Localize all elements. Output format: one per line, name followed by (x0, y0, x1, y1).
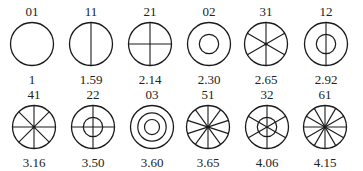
mode-label: 02 (179, 5, 239, 19)
mode-cell: 41 3.16 (4, 88, 64, 170)
mode-label: 31 (236, 5, 296, 19)
mode-cell: 01 1 (2, 5, 62, 87)
value-label: 2.30 (179, 73, 239, 87)
mode-cell: 32 4.06 (237, 88, 297, 170)
mode-label: 51 (178, 88, 238, 102)
mode-cell: 21 2.14 (120, 5, 180, 87)
mode-cell: 61 4.15 (295, 88, 355, 170)
value-label: 2.92 (296, 73, 356, 87)
mode-label: 12 (296, 5, 356, 19)
value-label: 3.50 (63, 156, 123, 170)
mode-cell: 11 1.59 (61, 5, 121, 87)
circle-pattern-icon (185, 104, 231, 150)
mode-label: 61 (295, 88, 355, 102)
value-label: 3.16 (4, 156, 64, 170)
circle-pattern-icon (68, 21, 114, 67)
mode-label: 22 (63, 88, 123, 102)
mode-cell: 22 3.50 (63, 88, 123, 170)
circle-pattern-icon (9, 21, 55, 67)
value-label: 3.65 (178, 156, 238, 170)
mode-label: 11 (61, 5, 121, 19)
value-label: 4.15 (295, 156, 355, 170)
value-label: 1.59 (61, 73, 121, 87)
mode-cell: 12 2.92 (296, 5, 356, 87)
circle-pattern-icon (129, 104, 175, 150)
circle-pattern-icon (244, 104, 290, 150)
circle-pattern-icon (243, 21, 289, 67)
value-label: 2.14 (120, 73, 180, 87)
circle-pattern-icon (302, 104, 348, 150)
value-label: 4.06 (237, 156, 297, 170)
mode-cell: 03 3.60 (122, 88, 182, 170)
mode-label: 03 (122, 88, 182, 102)
circle-pattern-icon (303, 21, 349, 67)
mode-cell: 02 2.30 (179, 5, 239, 87)
mode-cell: 31 2.65 (236, 5, 296, 87)
circle-pattern-icon (11, 104, 57, 150)
circle-pattern-icon (70, 104, 116, 150)
mode-cell: 51 3.65 (178, 88, 238, 170)
value-label: 3.60 (122, 156, 182, 170)
circle-pattern-icon (127, 21, 173, 67)
mode-label: 21 (120, 5, 180, 19)
mode-pattern-diagram: 01 1 11 1.59 21 2.14 02 2.30 31 2.65 12 … (0, 0, 363, 171)
mode-label: 01 (2, 5, 62, 19)
value-label: 1 (2, 73, 62, 87)
mode-label: 32 (237, 88, 297, 102)
value-label: 2.65 (236, 73, 296, 87)
mode-label: 41 (4, 88, 64, 102)
circle-pattern-icon (186, 21, 232, 67)
